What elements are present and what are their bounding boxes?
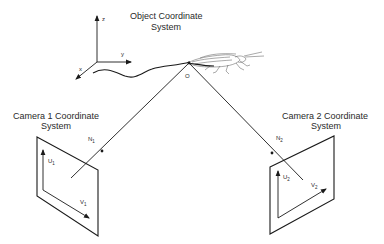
origin-label: O	[185, 73, 190, 79]
camera1-focal-point	[101, 150, 104, 153]
camera1-image-plane	[37, 137, 98, 236]
x-axis-label: x	[79, 66, 82, 72]
camera1-u-label: U1	[48, 158, 55, 166]
camera2-u-label: U2	[283, 174, 290, 182]
object-system-title-line2: System	[151, 22, 181, 32]
camera2-title-line2: System	[311, 121, 341, 131]
camera1-title-line1: Camera 1 Coordinate	[13, 111, 99, 121]
insect-icon	[188, 52, 264, 74]
camera1-title-line2: System	[41, 121, 71, 131]
camera2-title-line1: Camera 2 Coordinate	[282, 111, 368, 121]
stereo-camera-diagram: z y x Object Coordinate System O Camera …	[0, 0, 384, 244]
z-axis-label: z	[102, 16, 105, 22]
camera1-v-label: V1	[80, 199, 87, 207]
camera2-optical-axis	[189, 63, 303, 180]
camera1-normal-label: N1	[88, 136, 95, 144]
camera2-focal-point	[271, 152, 274, 155]
trajectory-curve	[93, 62, 190, 77]
camera2-v-label: V2	[311, 182, 318, 190]
camera2-v-axis	[278, 189, 326, 218]
camera2-image-plane	[270, 136, 334, 234]
y-axis-label: y	[121, 51, 124, 57]
object-system-title-line1: Object Coordinate	[130, 11, 203, 21]
camera2-normal-label: N2	[276, 135, 283, 143]
